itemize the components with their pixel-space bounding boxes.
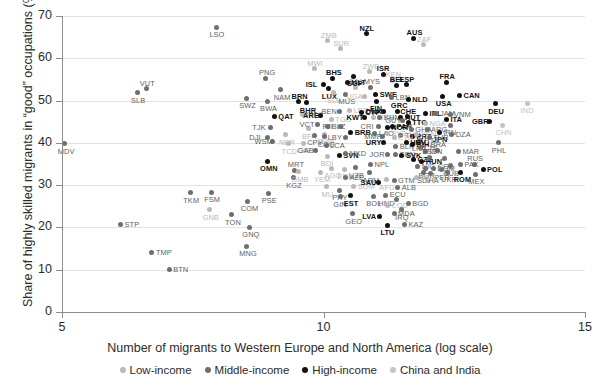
- data-point[interactable]: [385, 131, 390, 136]
- data-point[interactable]: [329, 117, 334, 122]
- data-point[interactable]: [384, 177, 389, 182]
- data-point[interactable]: [371, 115, 376, 120]
- data-point[interactable]: [268, 125, 273, 130]
- data-point[interactable]: [371, 194, 376, 199]
- data-point[interactable]: [301, 141, 306, 146]
- data-point[interactable]: [350, 211, 355, 216]
- data-point[interactable]: [167, 267, 172, 272]
- data-point[interactable]: [449, 132, 454, 137]
- data-point[interactable]: [322, 134, 327, 139]
- data-point[interactable]: [338, 194, 343, 199]
- data-point[interactable]: [214, 25, 219, 30]
- data-point[interactable]: [374, 99, 379, 104]
- data-point[interactable]: [325, 154, 330, 159]
- data-point[interactable]: [283, 132, 288, 137]
- data-point[interactable]: [278, 87, 283, 92]
- data-point[interactable]: [244, 96, 249, 101]
- data-point[interactable]: [525, 101, 530, 106]
- data-point[interactable]: [496, 140, 501, 145]
- x-tick-label: 15: [570, 320, 600, 334]
- data-point[interactable]: [135, 90, 140, 95]
- data-point[interactable]: [313, 148, 318, 153]
- data-point-label: LBY: [328, 134, 342, 141]
- data-point-label: BWA: [260, 105, 277, 112]
- data-point[interactable]: [337, 188, 342, 193]
- data-point[interactable]: [318, 170, 323, 175]
- data-point[interactable]: [272, 114, 277, 119]
- data-point[interactable]: [393, 144, 398, 149]
- data-point[interactable]: [342, 167, 347, 172]
- data-point[interactable]: [337, 109, 342, 114]
- data-point[interactable]: [415, 164, 420, 169]
- y-tick-mark: [56, 143, 62, 144]
- data-point[interactable]: [406, 201, 411, 206]
- data-point[interactable]: [458, 170, 463, 175]
- data-point[interactable]: [229, 212, 234, 217]
- data-point[interactable]: [343, 151, 348, 156]
- data-point[interactable]: [343, 175, 348, 180]
- data-point[interactable]: [244, 244, 249, 249]
- data-point[interactable]: [337, 153, 342, 158]
- data-point[interactable]: [296, 169, 301, 174]
- data-point[interactable]: [247, 225, 252, 230]
- data-point[interactable]: [367, 170, 372, 175]
- legend-label: High-income: [312, 364, 377, 376]
- data-point[interactable]: [353, 165, 358, 170]
- data-point[interactable]: [351, 184, 356, 189]
- data-point[interactable]: [431, 166, 436, 171]
- data-point[interactable]: [265, 99, 270, 104]
- data-point[interactable]: [245, 199, 250, 204]
- data-point[interactable]: [383, 193, 388, 198]
- data-point[interactable]: [481, 167, 486, 172]
- data-point[interactable]: [348, 130, 353, 135]
- data-point[interactable]: [385, 223, 390, 228]
- data-point[interactable]: [458, 162, 463, 167]
- data-point[interactable]: [381, 140, 386, 145]
- legend-item-high[interactable]: High-income: [302, 364, 377, 376]
- data-point[interactable]: [265, 159, 270, 164]
- data-point[interactable]: [414, 175, 419, 180]
- data-point[interactable]: [402, 222, 407, 227]
- data-point[interactable]: [440, 94, 445, 99]
- data-point[interactable]: [207, 207, 212, 212]
- data-point[interactable]: [411, 157, 416, 162]
- data-point[interactable]: [493, 101, 498, 106]
- data-point[interactable]: [457, 93, 462, 98]
- data-point[interactable]: [393, 152, 398, 157]
- data-point[interactable]: [473, 172, 478, 177]
- data-point[interactable]: [312, 133, 317, 138]
- data-point[interactable]: [321, 82, 326, 87]
- data-point[interactable]: [423, 111, 428, 116]
- data-point[interactable]: [389, 95, 394, 100]
- data-point[interactable]: [343, 135, 348, 140]
- data-point[interactable]: [392, 135, 397, 140]
- data-point[interactable]: [392, 178, 397, 183]
- x-tick-label: 5: [47, 320, 77, 334]
- data-point-label: BHS: [326, 69, 342, 76]
- data-point[interactable]: [442, 156, 447, 161]
- data-point[interactable]: [377, 214, 382, 219]
- data-point[interactable]: [414, 132, 419, 137]
- data-point[interactable]: [448, 123, 453, 128]
- data-point[interactable]: [304, 100, 309, 105]
- data-point[interactable]: [385, 152, 390, 157]
- data-point[interactable]: [456, 149, 461, 154]
- legend-item-mid[interactable]: Middle-income: [205, 364, 290, 376]
- data-point[interactable]: [324, 184, 329, 189]
- data-point[interactable]: [348, 193, 353, 198]
- data-point[interactable]: [315, 122, 320, 127]
- data-point[interactable]: [351, 74, 356, 79]
- data-point[interactable]: [329, 166, 334, 171]
- legend-item-ci[interactable]: China and India: [390, 364, 481, 376]
- data-point[interactable]: [500, 123, 505, 128]
- legend-item-low[interactable]: Low-income: [120, 364, 192, 376]
- data-point[interactable]: [209, 190, 214, 195]
- data-point[interactable]: [368, 162, 373, 167]
- data-point-label: FJI: [322, 123, 333, 130]
- data-point[interactable]: [373, 92, 378, 97]
- data-point[interactable]: [149, 250, 154, 255]
- data-point-label: MEX: [468, 178, 484, 185]
- data-point-label: SGP: [347, 80, 363, 87]
- data-point[interactable]: [266, 191, 271, 196]
- data-point[interactable]: [188, 190, 193, 195]
